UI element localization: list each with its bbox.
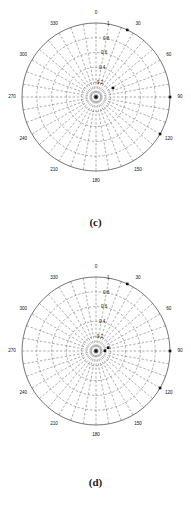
angular-tick-label-300: 300 xyxy=(19,52,27,57)
grid-spoke-150 xyxy=(96,351,133,415)
radial-tick-label-0.2: 0.2 xyxy=(97,80,104,85)
angular-tick-label-210: 210 xyxy=(50,167,58,172)
grid-spoke-300 xyxy=(32,314,96,351)
radial-tick-label-0.4: 0.4 xyxy=(99,319,106,324)
data-point-marker xyxy=(95,96,98,99)
figure-c: 03060901201501802102402703003300.20.40.6… xyxy=(0,0,191,254)
angular-tick-label-270: 270 xyxy=(8,94,16,99)
figure-d: 03060901201501802102402703003300.20.40.6… xyxy=(0,254,191,508)
angular-tick-label-0: 0 xyxy=(95,264,98,269)
radial-tick-label-1: 1 xyxy=(107,275,110,280)
grid-spoke-60 xyxy=(96,60,160,97)
angular-tick-label-0: 0 xyxy=(95,10,98,15)
data-point-marker xyxy=(112,87,115,90)
grid-spoke-150 xyxy=(96,97,133,161)
data-point-marker xyxy=(107,346,110,349)
radial-tick-label-0.8: 0.8 xyxy=(103,290,110,295)
grid-spoke-60 xyxy=(96,314,160,351)
grid-spoke-330 xyxy=(59,287,96,351)
radial-tick-label-0.6: 0.6 xyxy=(101,304,108,309)
data-point-marker xyxy=(126,283,129,286)
grid-spoke-120 xyxy=(96,97,160,134)
angular-tick-label-150: 150 xyxy=(134,167,142,172)
polar-chart-d: 03060901201501802102402703003300.20.40.6… xyxy=(0,254,191,459)
figure-page: 03060901201501802102402703003300.20.40.6… xyxy=(0,0,191,508)
data-point-marker xyxy=(159,387,162,390)
angular-tick-label-180: 180 xyxy=(92,178,100,183)
data-point-marker xyxy=(169,350,172,353)
figure-caption-d: (d) xyxy=(0,476,191,488)
angular-tick-label-120: 120 xyxy=(165,390,173,395)
angular-tick-label-210: 210 xyxy=(50,421,58,426)
angular-tick-label-270: 270 xyxy=(8,348,16,353)
figure-caption-c: (c) xyxy=(0,216,191,228)
angular-tick-label-30: 30 xyxy=(135,275,141,280)
data-point-marker xyxy=(169,96,172,99)
grid-spoke-240 xyxy=(32,97,96,134)
grid-spoke-210 xyxy=(59,351,96,415)
data-group-d xyxy=(95,283,172,390)
radial-tick-label-0.4: 0.4 xyxy=(99,65,106,70)
radial-tick-label-1: 1 xyxy=(107,21,110,26)
angular-tick-label-60: 60 xyxy=(166,52,172,57)
angular-tick-label-180: 180 xyxy=(92,432,100,437)
polar-plot-svg-c: 03060901201501802102402703003300.20.40.6… xyxy=(0,0,191,205)
angular-tick-label-60: 60 xyxy=(166,306,172,311)
angular-tick-label-240: 240 xyxy=(19,136,27,141)
angular-tick-label-300: 300 xyxy=(19,306,27,311)
polar-plot-svg-d: 03060901201501802102402703003300.20.40.6… xyxy=(0,254,191,459)
data-point-marker xyxy=(126,29,129,32)
data-point-marker xyxy=(95,350,98,353)
angular-tick-label-330: 330 xyxy=(50,21,58,26)
angular-tick-label-120: 120 xyxy=(165,136,173,141)
angular-tick-label-90: 90 xyxy=(177,94,183,99)
angular-tick-label-30: 30 xyxy=(135,21,141,26)
grid-spoke-110 xyxy=(96,97,166,122)
radial-tick-label-0.6: 0.6 xyxy=(101,50,108,55)
data-point-marker xyxy=(159,133,162,136)
angular-tick-label-90: 90 xyxy=(177,348,183,353)
angular-tick-label-150: 150 xyxy=(134,421,142,426)
angular-tick-label-240: 240 xyxy=(19,390,27,395)
grid-spoke-240 xyxy=(32,351,96,388)
grid-spoke-300 xyxy=(32,60,96,97)
radial-tick-label-0.8: 0.8 xyxy=(103,36,110,41)
data-point-marker xyxy=(104,349,107,352)
grid-spoke-210 xyxy=(59,97,96,161)
angular-tick-label-330: 330 xyxy=(50,275,58,280)
grid-spoke-330 xyxy=(59,33,96,97)
grid-spoke-110 xyxy=(96,351,166,376)
polar-chart-c: 03060901201501802102402703003300.20.40.6… xyxy=(0,0,191,205)
data-group-c xyxy=(95,29,172,136)
radial-tick-label-0.2: 0.2 xyxy=(97,334,104,339)
grid-spoke-120 xyxy=(96,351,160,388)
